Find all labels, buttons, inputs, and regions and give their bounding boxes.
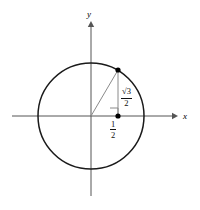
unit-circle-graphic: x y (0, 0, 200, 210)
one-half-denominator: 2 (110, 131, 116, 140)
radius-segment (91, 70, 118, 116)
x-axis-label: x (182, 111, 187, 121)
unit-circle-figure: x y √3 2 1 2 (0, 0, 200, 210)
label-sqrt3-over-2: √3 2 (121, 81, 132, 108)
label-one-half: 1 2 (110, 120, 116, 139)
foot-of-perpendicular-dot (115, 113, 120, 118)
sqrt3-denominator: 2 (121, 99, 132, 108)
sqrt3-numerator: √3 (121, 87, 132, 96)
point-on-circle-dot (115, 67, 120, 72)
one-half-numerator: 1 (110, 120, 116, 129)
y-axis-arrowhead (88, 21, 94, 27)
x-axis-group (12, 113, 178, 119)
y-axis-label: y (86, 9, 91, 19)
x-axis-arrowhead (172, 113, 178, 119)
